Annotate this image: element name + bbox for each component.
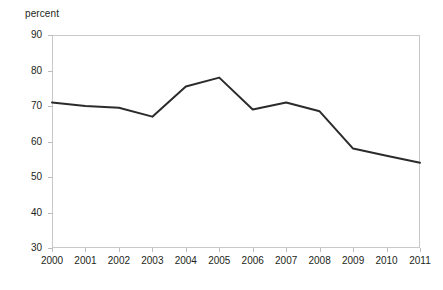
y-tick-label: 40 — [8, 208, 42, 218]
y-tick-label: 30 — [8, 243, 42, 253]
x-tick-mark — [353, 248, 354, 252]
x-tick-mark — [152, 248, 153, 252]
x-tick-mark — [253, 248, 254, 252]
x-tick-mark — [219, 248, 220, 252]
y-tick-label: 50 — [8, 172, 42, 182]
y-axis-title: percent — [25, 8, 59, 19]
x-tick-mark — [186, 248, 187, 252]
x-tick-label: 2011 — [400, 256, 440, 266]
x-tick-mark — [85, 248, 86, 252]
x-tick-mark — [52, 248, 53, 252]
y-tick-label: 60 — [8, 137, 42, 147]
line-chart: percent 30405060708090 20002001200220032… — [0, 0, 443, 290]
y-tick-label: 80 — [8, 66, 42, 76]
y-tick-label: 90 — [8, 30, 42, 40]
x-tick-mark — [387, 248, 388, 252]
x-tick-mark — [320, 248, 321, 252]
series-plot — [52, 35, 420, 248]
series-line-percent — [52, 78, 420, 163]
y-tick-label: 70 — [8, 101, 42, 111]
x-tick-mark — [420, 248, 421, 252]
x-tick-mark — [119, 248, 120, 252]
x-tick-mark — [286, 248, 287, 252]
